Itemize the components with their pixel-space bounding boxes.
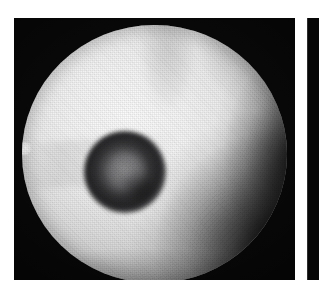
figure-root <box>0 0 319 295</box>
left-rim-notch <box>22 142 31 155</box>
endoscope-field-of-view <box>22 25 287 280</box>
panel-edge-highlight <box>307 18 308 280</box>
lesion-inner-crescent-shadow <box>114 165 154 203</box>
ring-lesion <box>84 131 166 213</box>
panel-separator-gap <box>295 18 307 280</box>
image-panel-main[interactable] <box>14 18 295 280</box>
image-panel-secondary[interactable] <box>307 18 319 280</box>
